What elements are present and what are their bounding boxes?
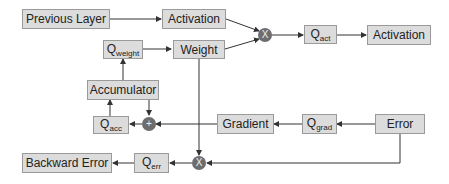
multiply-forward-operator: X (258, 28, 272, 42)
q-acc-box: Qacc (93, 116, 129, 134)
activation-input-label: Activation (168, 12, 220, 26)
q-weight-box: Qweight (103, 40, 143, 59)
edge-error-to-mult-backward (207, 134, 400, 163)
gradient-box: Gradient (217, 114, 274, 134)
edge-activation-to-mult (226, 19, 259, 31)
weight-label: Weight (180, 43, 217, 57)
q-grad-label: Qgrad (307, 116, 332, 132)
accumulator-label: Accumulator (90, 83, 157, 97)
q-grad-box: Qgrad (302, 114, 337, 134)
q-weight-label: Qweight (107, 42, 139, 58)
activation-output-box: Activation (367, 25, 431, 45)
accumulator-box: Accumulator (87, 80, 159, 100)
q-act-label: Qact (310, 27, 330, 43)
weight-box: Weight (173, 40, 225, 59)
error-label: Error (387, 117, 414, 131)
error-box: Error (375, 114, 425, 134)
multiply-backward-operator: X (192, 156, 206, 170)
add-update-operator: + (142, 117, 156, 131)
activation-output-label: Activation (373, 28, 425, 42)
edge-weight-to-mult (225, 39, 259, 49)
q-acc-label: Qacc (100, 117, 122, 133)
q-err-box: Qerr (134, 153, 169, 173)
backward-error-label: Backward Error (26, 156, 109, 170)
backward-error-box: Backward Error (22, 153, 112, 173)
q-act-box: Qact (304, 25, 337, 44)
previous-layer-label: Previous Layer (26, 12, 106, 26)
previous-layer-box: Previous Layer (22, 9, 110, 29)
q-err-label: Qerr (142, 155, 161, 171)
gradient-label: Gradient (222, 117, 268, 131)
activation-input-box: Activation (162, 9, 226, 29)
